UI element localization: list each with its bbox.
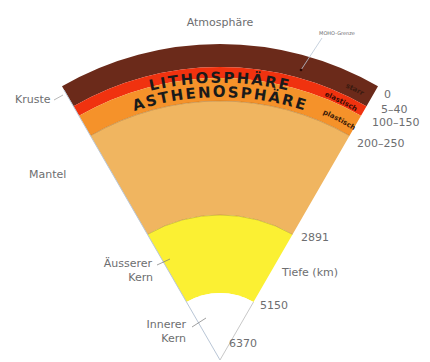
depth-moho: 5–40 xyxy=(381,103,408,116)
depth-core-mantle: 2891 xyxy=(301,231,329,244)
inner-core-label-line1: Innerer xyxy=(146,318,186,331)
depth-inner-core: 5150 xyxy=(260,299,288,312)
depth-lithosphere-base: 100–150 xyxy=(372,116,420,129)
depth-0: 0 xyxy=(384,88,391,101)
moho-pointer-dot xyxy=(300,69,303,72)
mantle-label: Mantel xyxy=(29,168,66,181)
earth-layers-diagram: LITHOSPHÄRE ASTHENOSPHÄRE starr elastisc… xyxy=(0,0,430,362)
inner-core-label-line2: Kern xyxy=(161,332,186,345)
depth-center: 6370 xyxy=(229,337,257,350)
moho-label: MOHO-Grenze xyxy=(319,30,355,36)
mantle-layer xyxy=(91,101,350,234)
crust-label: Kruste xyxy=(15,93,51,106)
outer-core-layer xyxy=(148,215,293,302)
atmosphere-label: Atmosphäre xyxy=(187,16,254,29)
depth-asthenosphere-base: 200–250 xyxy=(357,137,405,150)
depth-axis-label: Tiefe (km) xyxy=(281,266,338,279)
outer-core-label-line1: Äusserer xyxy=(104,257,153,270)
outer-core-label-line2: Kern xyxy=(128,271,153,284)
